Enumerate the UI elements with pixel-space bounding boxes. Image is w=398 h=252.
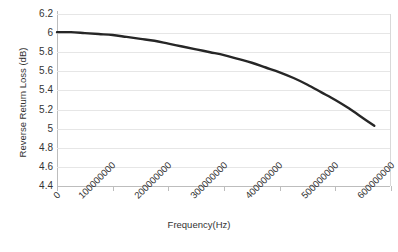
x-axis-tick [113,186,114,191]
y-axis-tick-labels: 6.265.85.65.45.254.84.64.4 [20,14,53,186]
y-axis-tick-label: 5.2 [20,105,53,115]
y-axis-tick-label: 4.8 [20,143,53,153]
series-path-reverse-return-loss [57,32,374,126]
chart-title [0,0,398,3]
y-axis-tick-label: 6 [20,28,53,38]
y-axis-tick-label: 5 [20,124,53,134]
x-axis-tick [57,186,58,191]
x-axis-tick [168,186,169,191]
x-axis-tick [335,186,336,191]
y-axis-tick-label: 5.4 [20,85,53,95]
x-axis-tick [224,186,225,191]
y-axis-tick-label: 4.4 [20,181,53,191]
y-axis-tick-label: 5.8 [20,47,53,57]
y-axis-tick-label: 5.6 [20,66,53,76]
chart-container: Reverse Return Loss (dB) 6.265.85.65.45.… [0,0,398,252]
y-axis-tick-label: 4.6 [20,162,53,172]
x-axis-tick [280,186,281,191]
x-axis-tick [391,186,392,191]
y-axis-tick-label: 6.2 [20,9,53,19]
x-axis-tick-label: 0 [51,189,63,201]
x-axis-title: Frequency(Hz) [0,219,398,230]
